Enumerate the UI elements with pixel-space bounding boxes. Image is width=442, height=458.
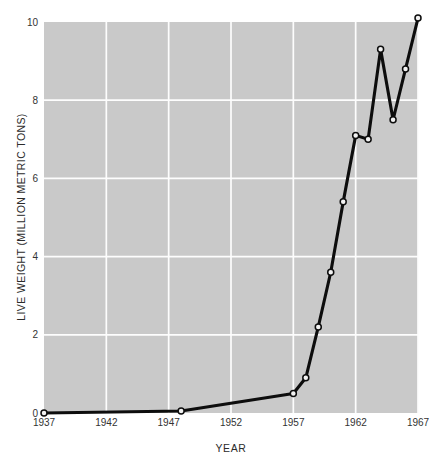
y-tick-label: 6 xyxy=(32,173,38,184)
x-tick-label: 1952 xyxy=(220,417,243,428)
x-tick-label: 1957 xyxy=(282,417,305,428)
y-tick-label: 4 xyxy=(32,251,38,262)
x-tick-label: 1967 xyxy=(407,417,430,428)
data-point-marker xyxy=(353,132,359,138)
x-tick-label: 1962 xyxy=(345,417,368,428)
data-point-marker xyxy=(403,66,409,72)
x-tick-label: 1942 xyxy=(95,417,118,428)
x-axis-label: YEAR xyxy=(216,442,247,454)
data-point-marker xyxy=(315,324,321,330)
x-tick-label: 1937 xyxy=(33,417,56,428)
y-tick-label: 8 xyxy=(32,95,38,106)
data-point-marker xyxy=(378,46,384,52)
data-point-marker xyxy=(390,117,396,123)
data-point-marker xyxy=(178,408,184,414)
data-point-marker xyxy=(415,15,421,21)
chart-figure: 0246810 1937194219471952195719621967 LIV… xyxy=(0,0,442,458)
y-axis-label: LIVE WEIGHT (MILLION METRIC TONS) xyxy=(15,113,27,320)
data-point-marker xyxy=(41,410,47,416)
data-point-marker xyxy=(290,390,296,396)
data-point-marker xyxy=(365,136,371,142)
y-tick-label: 2 xyxy=(32,329,38,340)
data-point-marker xyxy=(340,199,346,205)
x-tick-label: 1947 xyxy=(158,417,181,428)
line-chart: 0246810 1937194219471952195719621967 LIV… xyxy=(0,0,442,458)
data-point-marker xyxy=(328,269,334,275)
data-point-marker xyxy=(303,375,309,381)
y-tick-label: 10 xyxy=(27,17,39,28)
